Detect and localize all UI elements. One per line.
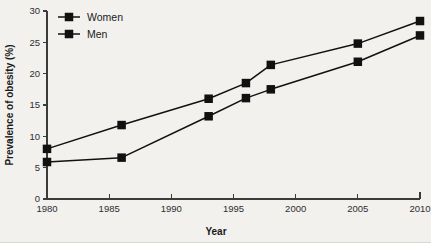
series-line [47,35,420,162]
series-line [47,21,420,149]
data-point [117,121,126,130]
data-point [242,94,251,103]
y-tick-label: 5 [35,162,40,173]
chart-figure: 051015202530 198019851990199520002005201… [0,0,431,243]
legend-marker [65,30,74,39]
y-tick-label: 15 [29,99,40,110]
data-point [354,39,363,48]
data-point [242,79,251,88]
legend-label: Women [87,11,123,23]
x-tick-label: 2000 [285,203,306,214]
x-axis-title: Year [205,226,226,237]
y-tick-label: 30 [29,5,40,16]
legend-label: Men [87,28,108,40]
x-tick-label: 2005 [347,203,368,214]
chart-legend: WomenMen [58,11,123,40]
data-point [43,145,52,154]
x-tick-label: 1990 [161,203,182,214]
data-point [204,112,213,121]
x-axis-ticks: 1980198519901995200020052010 [36,194,430,214]
y-tick-label: 25 [29,37,40,48]
series-men [43,31,425,166]
x-tick-label: 2010 [409,203,430,214]
data-point [416,31,425,40]
legend-marker [65,13,74,22]
line-chart: 051015202530 198019851990199520002005201… [0,0,431,243]
data-point [117,153,126,162]
x-tick-label: 1980 [36,203,57,214]
y-axis: 051015202530 [29,5,47,204]
y-axis-title: Prevalence of obesity (%) [4,44,15,165]
legend-item-men[interactable]: Men [58,28,108,40]
x-tick-label: 1985 [99,203,120,214]
legend-item-women[interactable]: Women [58,11,123,23]
data-point [43,158,52,167]
data-point [267,85,276,94]
data-point [416,17,425,26]
data-point [354,58,363,66]
data-point [204,94,213,103]
x-tick-label: 1995 [223,203,244,214]
y-tick-label: 10 [29,131,40,142]
y-axis-ticks: 051015202530 [29,5,47,204]
data-point [267,61,276,70]
y-tick-label: 20 [29,68,40,79]
x-axis: 1980198519901995200020052010 [36,192,430,214]
